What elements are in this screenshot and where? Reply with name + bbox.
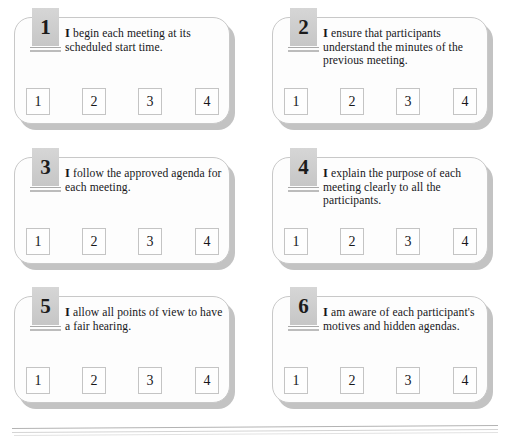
assessment-card[interactable]: 3 I follow the approved agenda for each … — [14, 157, 230, 265]
rating-option-1[interactable]: 1 — [284, 88, 308, 115]
horizontal-rule — [12, 425, 498, 429]
card-body: 1 I begin each meeting at its scheduled … — [14, 17, 230, 124]
rating-option-label: 2 — [349, 235, 356, 249]
statement-text: follow the approved agenda for each meet… — [65, 167, 222, 194]
card-number-badge: 3 — [32, 148, 59, 186]
card-number-badge: 2 — [290, 8, 317, 46]
rating-option-2[interactable]: 2 — [82, 88, 106, 115]
card-number-badge: 5 — [32, 287, 59, 325]
card-body: 4 I explain the purpose of each meeting … — [272, 157, 488, 264]
rating-option-2[interactable]: 2 — [340, 367, 364, 394]
assessment-card[interactable]: 4 I explain the purpose of each meeting … — [272, 157, 488, 265]
card-statement: I ensure that participants understand th… — [323, 27, 483, 68]
card-number: 4 — [298, 157, 309, 178]
rating-option-4[interactable]: 4 — [195, 228, 219, 255]
rating-scale: 1 2 3 4 — [26, 367, 220, 394]
statement-text: ensure that participants understand the … — [323, 27, 463, 67]
card-statement: I allow all points of view to have a fai… — [65, 306, 225, 333]
horizontal-rule — [14, 432, 498, 436]
statement-text: explain the purpose of each meeting clea… — [323, 167, 461, 207]
rating-scale: 1 2 3 4 — [284, 367, 478, 394]
rating-option-label: 3 — [147, 235, 154, 249]
rating-option-label: 3 — [405, 374, 412, 388]
card-number-badge: 4 — [290, 148, 317, 186]
rating-option-label: 2 — [349, 374, 356, 388]
card-statement: I explain the purpose of each meeting cl… — [323, 167, 483, 208]
badge-underline-rule — [30, 47, 61, 53]
assessment-card-grid: 1 I begin each meeting at its scheduled … — [0, 0, 509, 412]
rating-option-1[interactable]: 1 — [284, 228, 308, 255]
card-body: 2 I ensure that participants understand … — [272, 17, 488, 124]
rating-option-1[interactable]: 1 — [26, 88, 50, 115]
rating-option-label: 4 — [204, 95, 211, 109]
rating-option-2[interactable]: 2 — [82, 367, 106, 394]
rating-option-label: 3 — [405, 95, 412, 109]
rating-option-3[interactable]: 3 — [138, 367, 162, 394]
rating-option-3[interactable]: 3 — [396, 88, 420, 115]
rating-option-4[interactable]: 4 — [453, 88, 477, 115]
card-number: 1 — [40, 17, 51, 38]
assessment-card[interactable]: 2 I ensure that participants understand … — [272, 17, 488, 125]
card-number: 3 — [40, 157, 51, 178]
card-statement: I begin each meeting at its scheduled st… — [65, 27, 225, 54]
rating-option-label: 1 — [293, 235, 300, 249]
assessment-card[interactable]: 5 I allow all points of view to have a f… — [14, 296, 230, 404]
assessment-card[interactable]: 6 I am aware of each participant's motiv… — [272, 296, 488, 404]
rating-option-4[interactable]: 4 — [453, 228, 477, 255]
rating-option-label: 3 — [147, 95, 154, 109]
rating-scale: 1 2 3 4 — [284, 228, 478, 255]
rating-scale: 1 2 3 4 — [284, 88, 478, 115]
rating-option-2[interactable]: 2 — [340, 88, 364, 115]
badge-underline-rule — [30, 326, 61, 332]
card-number-badge: 1 — [32, 8, 59, 46]
badge-underline-rule — [30, 187, 61, 193]
badge-underline-rule — [288, 187, 319, 193]
rating-option-label: 4 — [462, 235, 469, 249]
rating-option-2[interactable]: 2 — [82, 228, 106, 255]
rating-option-label: 1 — [35, 95, 42, 109]
assessment-card[interactable]: 1 I begin each meeting at its scheduled … — [14, 17, 230, 125]
rating-option-3[interactable]: 3 — [396, 367, 420, 394]
rating-option-1[interactable]: 1 — [26, 367, 50, 394]
card-body: 3 I follow the approved agenda for each … — [14, 157, 230, 264]
rating-option-label: 4 — [462, 95, 469, 109]
rating-option-label: 1 — [35, 235, 42, 249]
card-number: 5 — [40, 296, 51, 317]
rating-option-2[interactable]: 2 — [340, 228, 364, 255]
statement-text: am aware of each participant's motives a… — [323, 306, 475, 333]
rating-option-label: 3 — [405, 235, 412, 249]
card-number: 2 — [298, 17, 309, 38]
rating-option-3[interactable]: 3 — [396, 228, 420, 255]
card-number-badge: 6 — [290, 287, 317, 325]
rating-option-3[interactable]: 3 — [138, 228, 162, 255]
statement-text: begin each meeting at its scheduled star… — [65, 27, 191, 54]
card-body: 6 I am aware of each participant's motiv… — [272, 296, 488, 403]
rating-option-label: 2 — [91, 95, 98, 109]
rating-option-3[interactable]: 3 — [138, 88, 162, 115]
card-statement: I am aware of each participant's motives… — [323, 306, 483, 333]
rating-scale: 1 2 3 4 — [26, 228, 220, 255]
badge-underline-rule — [288, 47, 319, 53]
rating-option-label: 1 — [293, 374, 300, 388]
rating-option-1[interactable]: 1 — [26, 228, 50, 255]
rating-option-label: 3 — [147, 374, 154, 388]
rating-option-4[interactable]: 4 — [195, 88, 219, 115]
statement-text: allow all points of view to have a fair … — [65, 306, 222, 333]
rating-option-1[interactable]: 1 — [284, 367, 308, 394]
page-bottom-rules — [0, 412, 509, 440]
rating-option-4[interactable]: 4 — [195, 367, 219, 394]
rating-scale: 1 2 3 4 — [26, 88, 220, 115]
rating-option-label: 1 — [35, 374, 42, 388]
card-number: 6 — [298, 296, 309, 317]
assessment-page: 1 I begin each meeting at its scheduled … — [0, 0, 509, 440]
rating-option-label: 4 — [204, 235, 211, 249]
rating-option-label: 4 — [204, 374, 211, 388]
card-body: 5 I allow all points of view to have a f… — [14, 296, 230, 403]
rating-option-label: 2 — [91, 235, 98, 249]
rating-option-label: 4 — [462, 374, 469, 388]
rating-option-label: 2 — [349, 95, 356, 109]
card-statement: I follow the approved agenda for each me… — [65, 167, 225, 194]
rating-option-label: 2 — [91, 374, 98, 388]
rating-option-4[interactable]: 4 — [453, 367, 477, 394]
rating-option-label: 1 — [293, 95, 300, 109]
